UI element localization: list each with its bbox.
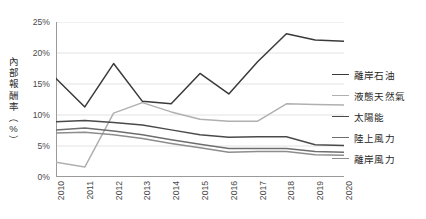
x-axis-tick-label: 2019: [315, 181, 325, 217]
x-axis-tick-label: 2010: [56, 181, 66, 217]
y-axis-title-char: ）: [8, 133, 19, 148]
legend-line-icon: [332, 95, 349, 96]
legend-item-label: 陸上風力: [354, 131, 395, 145]
chart-legend: 離岸石油液態天然氣太陽能陸上風力離岸風力: [332, 64, 426, 169]
legend-item[interactable]: 液態天然氣: [332, 85, 426, 106]
legend-line-icon: [332, 116, 349, 117]
legend-item-label: 離岸風力: [354, 152, 395, 166]
legend-item[interactable]: 太陽能: [332, 106, 426, 127]
y-axis-title-char: 內: [6, 56, 21, 67]
legend-item[interactable]: 離岸石油: [332, 64, 426, 85]
y-axis-title-char: （: [8, 110, 19, 125]
x-axis-tick-label: 2017: [258, 181, 268, 217]
irr-line-chart: 內部報酬率（%） 0%5%10%15%20%25% 20102011201220…: [0, 0, 426, 219]
legend-item[interactable]: 陸上風力: [332, 127, 426, 148]
x-axis-tick-label: 2012: [114, 181, 124, 217]
x-axis-tick-labels: 2010201120122013201420152016201720182019…: [56, 177, 344, 219]
y-axis-tick-label: 5%: [24, 141, 50, 151]
x-axis-tick-label: 2011: [85, 181, 95, 217]
y-axis-tick-label: 0%: [24, 172, 50, 182]
x-axis-tick-label: 2013: [142, 181, 152, 217]
plot-svg: [56, 22, 344, 177]
x-axis-tick-label: 2020: [344, 181, 354, 217]
y-axis-title-char: 報: [6, 78, 21, 89]
x-axis-tick-label: 2016: [229, 181, 239, 217]
legend-item-label: 離岸石油: [354, 68, 395, 82]
y-axis-title: 內部報酬率（%）: [6, 56, 21, 146]
x-axis-tick-label: 2015: [200, 181, 210, 217]
y-axis-tick-label: 15%: [24, 79, 50, 89]
y-axis-tick-label: 25%: [24, 17, 50, 27]
legend-line-icon: [332, 158, 349, 159]
legend-line-icon: [332, 137, 349, 138]
legend-item[interactable]: 離岸風力: [332, 148, 426, 169]
legend-item-label: 太陽能: [354, 110, 385, 124]
y-axis-title-char: 部: [6, 67, 21, 78]
legend-line-icon: [332, 74, 349, 75]
y-axis-title-char: 酬: [6, 90, 21, 101]
plot-area: [56, 22, 344, 177]
y-axis-tick-labels: 0%5%10%15%20%25%: [24, 0, 50, 219]
y-axis-tick-label: 20%: [24, 48, 50, 58]
x-axis-tick-label: 2018: [286, 181, 296, 217]
x-axis-tick-label: 2014: [171, 181, 181, 217]
series-line: [56, 34, 344, 107]
legend-item-label: 液態天然氣: [354, 89, 405, 103]
y-axis-tick-label: 10%: [24, 110, 50, 120]
